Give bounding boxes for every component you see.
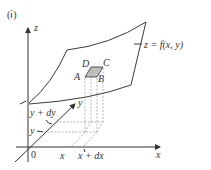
vertex-label-c: C: [103, 57, 110, 68]
projection-line: [97, 122, 103, 132]
x-tick-label: x: [59, 150, 65, 161]
z-axis-label: z: [33, 22, 38, 33]
vertex-label-d: D: [81, 58, 90, 69]
panel-label: (ⅰ): [7, 9, 17, 21]
surface-right-edge: [131, 22, 146, 85]
surface-left-edge: [29, 50, 67, 103]
projection-line: [85, 122, 91, 132]
projection-line: [72, 132, 85, 146]
x-plus-dx-label: x + dx: [77, 150, 104, 161]
y-tick-label: y: [29, 125, 35, 136]
origin-label: 0: [31, 149, 36, 160]
z-axis-tick: [20, 101, 26, 104]
y-plus-dy-label: y + dy: [29, 107, 56, 118]
surface-top-edge: [67, 22, 146, 50]
x-axis-label: x: [155, 149, 161, 160]
y-plus-dy-leader: [46, 120, 52, 124]
surface-integral-diagram: (ⅰ) z x y 0 z = f(x, y) A B C D y + dy y…: [0, 0, 211, 170]
vertex-label-a: A: [73, 71, 81, 82]
y-tick-leader: [37, 131, 43, 132]
projection-line: [84, 132, 97, 146]
surface-label: z = f(x, y): [143, 39, 184, 51]
